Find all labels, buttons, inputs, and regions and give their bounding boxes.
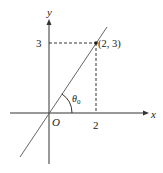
line-through-origin (20, 27, 107, 157)
x-axis (10, 111, 149, 116)
angle-arc (62, 94, 72, 113)
x-tick-label: 2 (93, 119, 99, 131)
y-axis-label: y (46, 6, 52, 18)
x-axis-arrow-icon (143, 111, 149, 116)
x-axis-label: x (150, 108, 156, 120)
y-tick-label: 3 (36, 37, 42, 49)
origin-label: O (52, 116, 60, 128)
line-angle-diagram: y x 3 2 O (2, 3) θ0 (0, 0, 163, 173)
angle-label: θ0 (72, 93, 81, 106)
y-axis-arrow-icon (47, 19, 52, 25)
y-axis (47, 19, 52, 164)
point-label: (2, 3) (98, 38, 121, 50)
